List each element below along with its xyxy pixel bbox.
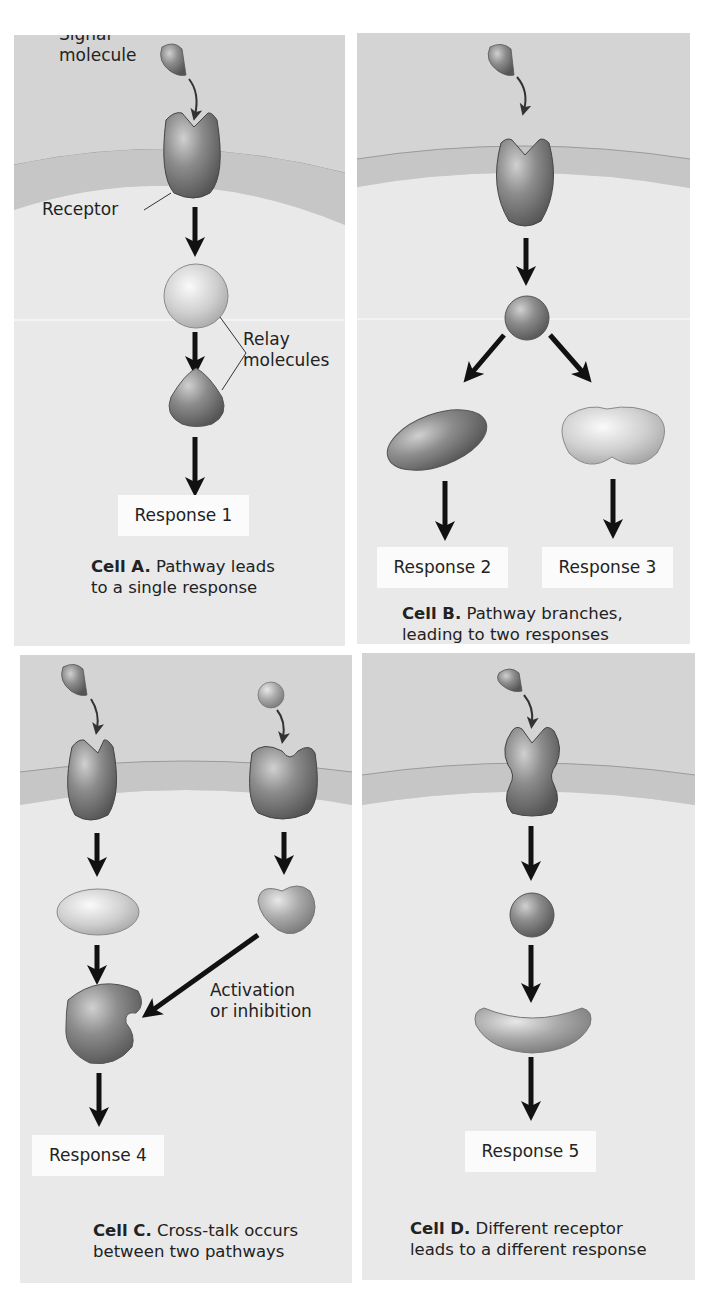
response-5-box: Response 5 bbox=[465, 1131, 596, 1172]
panel-cell-a: Signalmolecule Receptor Relaymolecules R… bbox=[14, 35, 345, 646]
cell-c-diagram bbox=[20, 655, 352, 1283]
receptor-label: Receptor bbox=[42, 199, 118, 220]
receptor-icon bbox=[164, 113, 220, 198]
arrow-icon bbox=[470, 335, 504, 375]
response-4-box: Response 4 bbox=[32, 1135, 164, 1176]
relay-molecule-sphere-icon bbox=[510, 893, 554, 937]
activation-inhibition-label: Activationor inhibition bbox=[210, 980, 312, 1022]
relay-molecule-ellipse-icon bbox=[379, 398, 495, 482]
signal-molecule-label: Signalmolecule bbox=[59, 35, 136, 66]
relay-molecules-label: Relaymolecules bbox=[243, 329, 329, 371]
cell-b-caption: Cell B. Pathway branches, leading to two… bbox=[402, 603, 623, 644]
relay-molecule-ellipse-icon bbox=[57, 889, 139, 935]
relay-molecule-sphere-icon bbox=[164, 264, 228, 328]
signal-molecule-round-icon bbox=[258, 682, 284, 708]
panel-cell-b: Response 2 Response 3 Cell B. Pathway br… bbox=[357, 33, 690, 644]
panel-cell-d: Response 5 Cell D. Different receptor le… bbox=[362, 653, 695, 1280]
relay-molecule-cone-icon bbox=[169, 368, 224, 427]
relay-molecule-sphere-icon bbox=[505, 296, 549, 340]
response-3-box: Response 3 bbox=[542, 547, 673, 588]
receptor-round-icon bbox=[250, 746, 318, 819]
response-2-box: Response 2 bbox=[377, 547, 508, 588]
cell-a-caption: Cell A. Pathway leads to a single respon… bbox=[91, 556, 275, 598]
receptor-icon bbox=[68, 740, 117, 820]
cell-c-caption: Cell C. Cross-talk occurs between two pa… bbox=[93, 1220, 298, 1262]
panel-cell-c: Activationor inhibition Response 4 Cell … bbox=[20, 655, 352, 1283]
cell-d-caption: Cell D. Different receptor leads to a di… bbox=[410, 1218, 647, 1260]
relay-molecule-heart-icon bbox=[258, 886, 315, 934]
cell-d-diagram bbox=[362, 653, 695, 1280]
arrow-icon bbox=[550, 335, 585, 375]
response-1-box: Response 1 bbox=[118, 495, 249, 536]
target-protein-kidney-icon bbox=[66, 984, 142, 1064]
relay-molecule-crescent-icon bbox=[475, 1008, 591, 1053]
relay-molecule-dumbbell-icon bbox=[562, 407, 665, 464]
